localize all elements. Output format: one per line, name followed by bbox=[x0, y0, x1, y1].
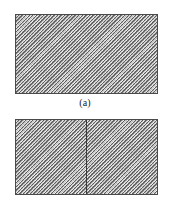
vertical-divider-line bbox=[86, 120, 87, 194]
figure-page: (a) (b) bbox=[0, 0, 170, 217]
hatched-rectangle-b bbox=[15, 119, 158, 195]
hatched-rectangle-a bbox=[15, 14, 158, 94]
figure-panel-a: (a) bbox=[0, 0, 170, 110]
figure-panel-b: (b) bbox=[0, 105, 170, 217]
diagonal-hatch-fill bbox=[15, 14, 158, 94]
